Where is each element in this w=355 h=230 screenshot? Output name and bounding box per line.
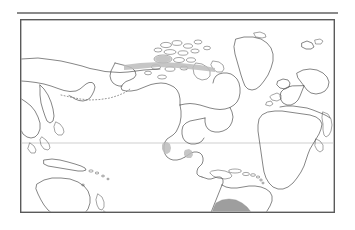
figure-page [0, 0, 355, 230]
world-map-svg [20, 19, 335, 213]
map-frame-border [21, 20, 335, 213]
top-horizontal-rule [17, 12, 338, 14]
world-map-figure [20, 19, 335, 213]
range-arctic-patch [155, 56, 171, 63]
